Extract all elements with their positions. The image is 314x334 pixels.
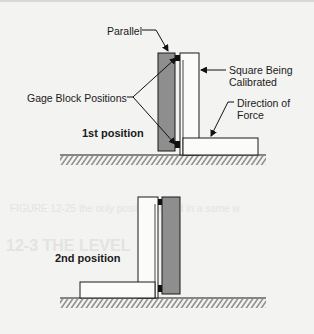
label-force: Force <box>237 109 264 121</box>
gage-block-lower <box>175 141 180 148</box>
square-base <box>183 138 258 155</box>
label-2nd-position: 2nd position <box>55 252 120 264</box>
gage-block-upper-2 <box>158 199 162 205</box>
parallel-bar <box>158 53 175 151</box>
parallel-leader-arrow <box>142 30 168 51</box>
force-leader-arrow <box>211 102 234 136</box>
gage-block-diagram <box>0 0 314 334</box>
label-direction-of: Direction of <box>237 97 290 109</box>
square-base-2 <box>80 282 155 298</box>
label-square-being: Square Being <box>229 64 293 76</box>
label-parallel: Parallel <box>107 25 142 37</box>
label-gage-block-positions: Gage Block Positions <box>27 92 127 104</box>
gage-block-lower-2 <box>158 285 162 292</box>
label-1st-position: 1st position <box>82 127 144 139</box>
label-calibrated: Calibrated <box>229 76 277 88</box>
parallel-bar-2 <box>162 197 180 294</box>
ground-surface-bottom <box>60 298 266 308</box>
ground-surface-top <box>60 155 266 165</box>
